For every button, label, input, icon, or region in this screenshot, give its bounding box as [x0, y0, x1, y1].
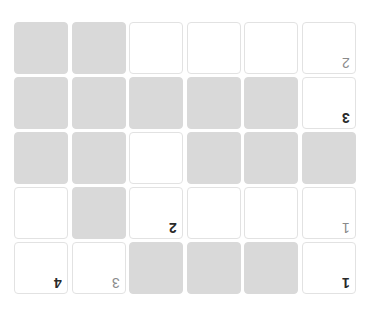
grid-cell-r3-c5[interactable]	[244, 132, 298, 184]
grid-cell-r5-c6[interactable]: 1	[302, 242, 356, 294]
grid-cell-r4-c4[interactable]	[187, 187, 241, 239]
grid-cell-r3-c3[interactable]	[129, 132, 183, 184]
grid-cell-r1-c1[interactable]	[14, 22, 68, 74]
grid-cell-r3-c1[interactable]	[14, 132, 68, 184]
cell-clue-number: 3	[112, 276, 120, 290]
puzzle-board: 2321431	[14, 22, 356, 294]
grid-cell-r3-c2[interactable]	[72, 132, 126, 184]
grid-cell-r5-c3[interactable]	[129, 242, 183, 294]
grid-cell-r4-c5[interactable]	[244, 187, 298, 239]
grid-cell-r2-c4[interactable]	[187, 77, 241, 129]
grid-cell-r2-c6[interactable]: 3	[302, 77, 356, 129]
grid-cell-r1-c6[interactable]: 2	[302, 22, 356, 74]
grid-cell-r1-c4[interactable]	[187, 22, 241, 74]
cell-clue-number: 2	[169, 221, 177, 235]
cell-clue-number: 1	[342, 221, 350, 235]
grid-cell-r2-c1[interactable]	[14, 77, 68, 129]
grid-cell-r5-c4[interactable]	[187, 242, 241, 294]
grid-cell-r4-c2[interactable]	[72, 187, 126, 239]
grid-cell-r1-c3[interactable]	[129, 22, 183, 74]
grid-cell-r4-c1[interactable]	[14, 187, 68, 239]
grid-cell-r1-c2[interactable]	[72, 22, 126, 74]
cell-clue-number: 4	[54, 276, 62, 290]
grid-cell-r5-c1[interactable]: 4	[14, 242, 68, 294]
grid-cell-r1-c5[interactable]	[244, 22, 298, 74]
grid-cell-r5-c5[interactable]	[244, 242, 298, 294]
cell-clue-number: 1	[342, 276, 350, 290]
grid-cell-r3-c6[interactable]	[302, 132, 356, 184]
grid-cell-r2-c3[interactable]	[129, 77, 183, 129]
grid-cell-r5-c2[interactable]: 3	[72, 242, 126, 294]
cell-clue-number: 3	[342, 111, 350, 125]
grid-cell-r3-c4[interactable]	[187, 132, 241, 184]
cell-clue-number: 2	[342, 56, 350, 70]
grid-cell-r4-c3[interactable]: 2	[129, 187, 183, 239]
grid-cell-r2-c2[interactable]	[72, 77, 126, 129]
grid-cell-r2-c5[interactable]	[244, 77, 298, 129]
grid-cell-r4-c6[interactable]: 1	[302, 187, 356, 239]
